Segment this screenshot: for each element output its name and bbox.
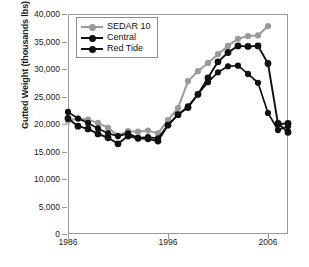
data-point [115,133,121,139]
data-point [245,33,251,39]
data-point [95,131,102,138]
legend-label: Red Tide [107,43,143,54]
data-point [165,122,172,129]
data-point [225,49,232,56]
data-point [105,134,112,141]
legend-marker-icon [81,33,103,42]
data-point [235,63,241,69]
data-point [205,60,211,66]
legend-label: SEDAR 10 [107,21,151,32]
data-point [145,135,152,142]
data-point [85,126,92,133]
data-point [125,133,132,140]
data-point [175,105,181,111]
series-red-tide [65,43,292,148]
data-point [65,115,72,122]
data-point [225,63,231,69]
series-line [68,66,288,139]
data-point [95,120,101,126]
data-point [255,80,261,86]
data-point [245,43,252,50]
data-point [285,129,292,136]
legend-marker-icon [81,22,103,31]
data-point [155,138,162,145]
data-point [215,58,222,65]
data-point [135,129,141,135]
data-point [245,71,251,77]
series-central [65,63,291,142]
data-point [135,135,142,142]
data-point [65,109,71,115]
data-point [195,68,201,74]
data-point [225,43,231,49]
legend-label: Central [107,32,136,43]
legend-item-central: Central [81,32,151,43]
legend-item-red-tide: Red Tide [81,43,151,54]
data-point [265,60,272,67]
data-point [185,104,192,111]
data-point [285,120,292,127]
data-point [215,69,221,75]
data-point [105,125,111,131]
data-point [145,128,151,134]
data-point [85,120,91,126]
data-point [115,140,122,147]
data-point [205,74,212,81]
data-point [215,51,221,57]
legend: SEDAR 10CentralRed Tide [76,17,158,58]
chart-container: Gutted Weight (thousands lbs) 05,00010,0… [0,0,309,267]
data-point [185,78,191,84]
data-point [75,123,82,130]
legend-marker-icon [81,44,103,53]
legend-item-sedar-10: SEDAR 10 [81,21,151,32]
data-point [265,23,271,29]
data-point [235,43,242,50]
data-point [75,115,81,121]
data-point [195,91,202,98]
data-point [275,127,281,133]
data-point [255,32,261,38]
data-point [175,111,182,118]
data-point [255,43,262,50]
data-point [265,110,271,116]
data-point [275,120,282,127]
data-point [235,36,241,42]
